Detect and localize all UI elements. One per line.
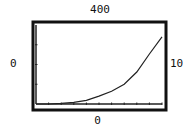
screen-frame [33,22,166,110]
graph-screen [0,0,195,130]
function-curve [36,37,162,104]
axes [35,25,162,105]
